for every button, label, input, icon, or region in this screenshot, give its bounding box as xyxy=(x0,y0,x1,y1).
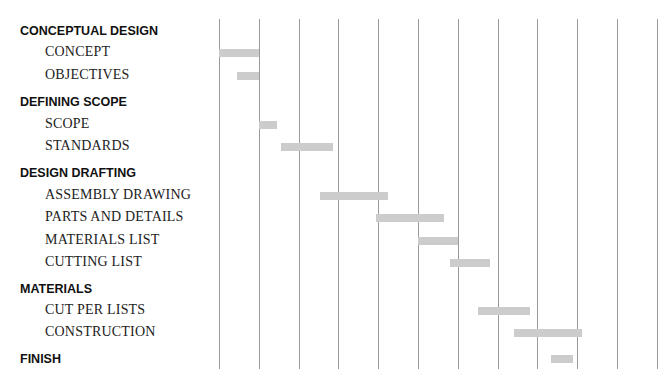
task-bar xyxy=(237,72,259,80)
task-bar xyxy=(418,237,458,245)
grid-line xyxy=(418,19,419,369)
task-label: CUT PER LISTS xyxy=(45,302,145,318)
task-bar xyxy=(219,49,259,57)
task-label: MATERIALS LIST xyxy=(45,232,159,248)
category-label: DEFINING SCOPE xyxy=(20,95,127,109)
task-bar xyxy=(514,329,582,337)
task-bar xyxy=(376,214,444,222)
task-label: STANDARDS xyxy=(45,138,130,154)
task-bar xyxy=(259,121,277,129)
task-label: CONCEPT xyxy=(45,44,110,60)
task-bar xyxy=(281,143,333,151)
category-label: DESIGN DRAFTING xyxy=(20,166,136,180)
grid-line xyxy=(537,19,538,369)
task-label: PARTS AND DETAILS xyxy=(45,209,184,225)
task-bar xyxy=(320,192,388,200)
grid-line xyxy=(299,19,300,369)
grid-line xyxy=(657,19,658,369)
task-label: OBJECTIVES xyxy=(45,67,129,83)
task-label: CUTTING LIST xyxy=(45,254,142,270)
grid-line xyxy=(458,19,459,369)
category-label: CONCEPTUAL DESIGN xyxy=(20,24,158,38)
task-bar xyxy=(551,355,573,363)
grid-line xyxy=(617,19,618,369)
category-label: MATERIALS xyxy=(20,282,92,296)
grid-line xyxy=(219,19,220,369)
task-bar xyxy=(478,307,530,315)
task-label: ASSEMBLY DRAWING xyxy=(45,187,191,203)
gantt-chart: CONCEPTUAL DESIGNCONCEPTOBJECTIVESDEFINI… xyxy=(0,0,670,388)
task-label: CONSTRUCTION xyxy=(45,324,156,340)
task-bar xyxy=(450,259,490,267)
category-label: FINISH xyxy=(20,352,61,366)
grid-line xyxy=(577,19,578,369)
grid-line xyxy=(498,19,499,369)
task-label: SCOPE xyxy=(45,116,90,132)
grid-line xyxy=(259,19,260,369)
